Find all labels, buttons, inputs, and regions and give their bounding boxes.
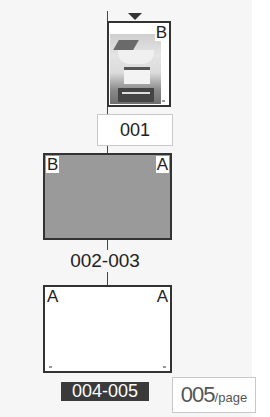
page-count-suffix: /page xyxy=(215,390,248,405)
page-label-002-003[interactable]: 002-003 xyxy=(60,250,150,272)
page-number: 001 xyxy=(120,120,150,140)
page-label-004-005[interactable]: 004-005 xyxy=(61,382,149,401)
page-count-value: 005 xyxy=(181,382,215,407)
master-letter-right: A xyxy=(156,288,169,305)
master-letter-left: B xyxy=(46,156,59,173)
page-number: 002-003 xyxy=(70,250,140,271)
triangle-down-icon xyxy=(128,13,142,20)
page-thumbnail-001[interactable]: B xyxy=(107,21,171,107)
page-label-001[interactable]: 001 xyxy=(97,114,173,146)
corner-mark xyxy=(163,366,166,368)
page-thumbnail-004-005[interactable]: A A xyxy=(43,285,172,373)
master-letter-right: A xyxy=(156,156,169,173)
corner-mark xyxy=(163,233,166,235)
corner-mark xyxy=(49,233,52,235)
page-count-box: 005/page xyxy=(172,377,256,413)
master-letter-right: B xyxy=(155,24,168,41)
page-number: 004-005 xyxy=(72,381,138,401)
master-letter-left: A xyxy=(46,288,59,305)
corner-mark xyxy=(162,100,165,102)
photo-thumbnail xyxy=(110,34,161,104)
corner-mark xyxy=(49,366,52,368)
page-thumbnail-002-003[interactable]: B A xyxy=(43,153,172,240)
